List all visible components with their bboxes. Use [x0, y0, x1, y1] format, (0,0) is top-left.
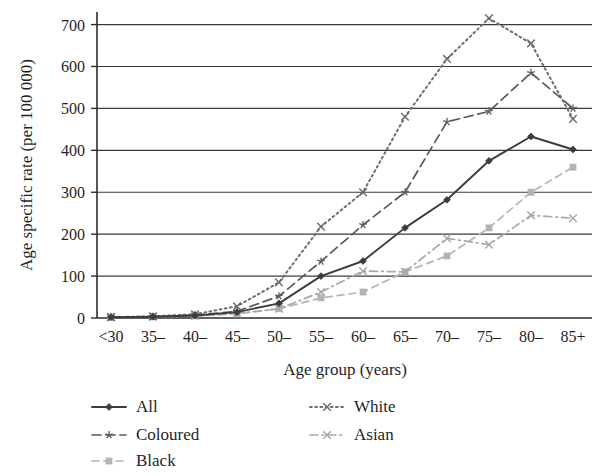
y-axis-tick-label: 500 — [61, 100, 85, 117]
x-axis-tick-label: 45– — [225, 328, 250, 345]
x-axis-tick-label: 60– — [351, 328, 376, 345]
x-axis-tick-label: 40– — [183, 328, 208, 345]
y-axis-tick-label: 300 — [61, 184, 85, 201]
data-point-marker — [486, 225, 492, 231]
y-axis-title: Age specific rate (per 100 000) — [17, 59, 36, 271]
chart-background — [0, 0, 600, 475]
y-axis-tick-label: 0 — [77, 310, 85, 327]
x-axis-tick-label: 85+ — [560, 328, 585, 345]
data-point-marker — [106, 458, 112, 464]
x-axis-tick-label: 65– — [393, 328, 418, 345]
legend-label: Coloured — [136, 425, 200, 444]
data-point-marker — [570, 164, 576, 170]
x-axis-tick-label: <30 — [98, 328, 123, 345]
legend-label: All — [136, 397, 158, 416]
y-axis-tick-label: 600 — [61, 58, 85, 75]
data-point-marker — [444, 253, 450, 259]
x-axis-tick-label: 75– — [477, 328, 502, 345]
y-axis-tick-label: 400 — [61, 142, 85, 159]
legend-label: Asian — [354, 425, 394, 444]
data-point-marker — [318, 295, 324, 301]
data-point-marker — [360, 289, 366, 295]
figure-container: 0100200300400500600700 <3035–40–45–50–55… — [0, 0, 600, 475]
y-axis-tick-label: 200 — [61, 226, 85, 243]
x-axis-tick-label: 35– — [141, 328, 166, 345]
x-axis-title: Age group (years) — [283, 360, 407, 379]
y-axis-tick-label: 100 — [61, 268, 85, 285]
x-axis-tick-label: 55– — [309, 328, 334, 345]
legend-label: Black — [136, 451, 176, 470]
data-point-marker — [528, 189, 534, 195]
age-specific-rate-line-chart: 0100200300400500600700 <3035–40–45–50–55… — [0, 0, 600, 475]
x-axis-tick-label: 70– — [435, 328, 460, 345]
x-axis-tick-label: 80– — [519, 328, 544, 345]
y-axis-tick-label: 700 — [61, 17, 85, 34]
legend-label: White — [354, 397, 396, 416]
x-axis-tick-label: 50– — [267, 328, 292, 345]
